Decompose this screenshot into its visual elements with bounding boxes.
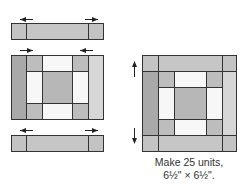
corner-square [158, 119, 175, 136]
caption-line-2: 6½" × 6½". [140, 169, 238, 182]
light-side-strip [222, 71, 237, 136]
center-square [174, 87, 207, 120]
dark-side-strip [11, 55, 27, 120]
strip-end-square [11, 23, 27, 40]
white-piece [206, 87, 223, 120]
light-side-strip [88, 55, 104, 120]
center-square [42, 71, 73, 104]
arrow-up-icon [132, 61, 137, 77]
strip-middle [158, 55, 223, 72]
strip-middle [158, 135, 223, 152]
strip-end-square [142, 55, 159, 72]
caption-line-1: Make 25 units, [140, 156, 238, 169]
corner-square [72, 103, 89, 120]
strip-end-square [88, 135, 104, 152]
arrow-right-icon [85, 128, 98, 133]
arrow-down-icon [132, 128, 137, 144]
strip-end-square [222, 55, 237, 72]
corner-square [206, 119, 223, 136]
white-piece [174, 71, 207, 88]
white-piece [26, 71, 43, 104]
arrow-right-icon [20, 48, 33, 53]
dark-side-strip [142, 71, 159, 136]
strip-middle [26, 135, 89, 152]
strip-end-square [88, 23, 104, 40]
white-piece [72, 71, 89, 104]
strip-middle [26, 23, 89, 40]
corner-square [206, 71, 223, 88]
arrow-left-icon [20, 128, 33, 133]
corner-square [26, 55, 43, 72]
white-piece [42, 55, 73, 72]
white-piece [42, 103, 73, 120]
corner-square [72, 55, 89, 72]
strip-end-square [222, 135, 237, 152]
white-piece [158, 87, 175, 120]
white-piece [174, 119, 207, 136]
corner-square [26, 103, 43, 120]
arrow-left-icon [80, 48, 93, 53]
arrow-right-icon [85, 17, 98, 22]
corner-square [158, 71, 175, 88]
arrow-left-icon [20, 17, 33, 22]
strip-end-square [11, 135, 27, 152]
strip-end-square [142, 135, 159, 152]
